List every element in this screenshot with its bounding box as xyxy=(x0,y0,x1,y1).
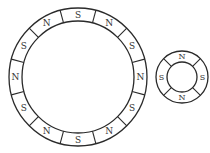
pole-label: N xyxy=(179,93,186,102)
segment-divider xyxy=(11,91,24,94)
pole-label: S xyxy=(129,103,135,113)
pole-label: S xyxy=(75,10,81,20)
segment-divider xyxy=(193,88,201,96)
pole-label: S xyxy=(129,41,135,51)
segment-divider xyxy=(132,59,145,62)
segment-divider xyxy=(60,131,63,144)
segment-divider xyxy=(193,59,201,67)
segment-divider xyxy=(132,91,145,94)
pole-label: S xyxy=(75,135,81,145)
pole-label: S xyxy=(159,73,164,82)
pole-label: N xyxy=(105,126,113,136)
pole-label: N xyxy=(43,18,51,28)
inner-circle xyxy=(22,21,134,133)
pole-label: N xyxy=(105,18,113,28)
pole-label: N xyxy=(12,72,20,82)
small-magnet-ring: NSNS xyxy=(156,51,208,103)
pole-label: N xyxy=(137,72,145,82)
segment-divider xyxy=(118,28,127,37)
segment-divider xyxy=(118,117,127,126)
pole-label: S xyxy=(21,103,27,113)
magnet-rings-diagram: SNSNSNSNSNSN NSNS xyxy=(0,0,210,153)
segment-divider xyxy=(92,131,95,144)
segment-divider xyxy=(164,59,172,67)
pole-label: N xyxy=(179,52,186,61)
segment-divider xyxy=(29,28,38,37)
pole-label: S xyxy=(200,73,205,82)
inner-circle xyxy=(167,62,197,92)
large-magnet-ring: SNSNSNSNSNSN xyxy=(9,8,147,146)
segment-divider xyxy=(92,10,95,23)
segment-divider xyxy=(164,88,172,96)
pole-label: S xyxy=(21,41,27,51)
segment-divider xyxy=(11,59,24,62)
segment-divider xyxy=(60,10,63,23)
pole-label: N xyxy=(43,126,51,136)
segment-divider xyxy=(29,117,38,126)
